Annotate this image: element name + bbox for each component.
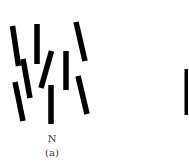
oriented-bar-1 xyxy=(13,26,19,66)
panel-label: (a) xyxy=(0,148,104,158)
oriented-bar-5 xyxy=(41,51,52,88)
oriented-bar-9 xyxy=(78,76,87,114)
bar-stimuli-group xyxy=(13,22,88,124)
partial-bar-next-panel xyxy=(185,69,189,115)
oriented-bar-4 xyxy=(15,82,23,121)
oriented-bar-8 xyxy=(76,22,85,61)
oriented-bar-3 xyxy=(23,59,30,98)
condition-label: N xyxy=(0,134,104,144)
